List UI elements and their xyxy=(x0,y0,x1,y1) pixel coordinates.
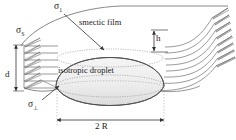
label-smectic-film: smectic film xyxy=(79,18,121,27)
dimension-d xyxy=(13,45,24,91)
label-sigma-s: σS xyxy=(16,26,24,38)
figure-canvas: σS σ1 σ⊥ smectic film isotropic droplet … xyxy=(0,0,236,140)
label-sigma-i: σ1 xyxy=(54,2,62,14)
label-diameter-2r: 2 R xyxy=(95,122,108,131)
film-top-surface xyxy=(22,6,228,46)
smectic-layer-edges-right xyxy=(212,8,236,67)
sigma-perp-subscript: ⊥ xyxy=(33,105,38,111)
label-height-h: h xyxy=(156,34,161,43)
sigma-s-subscript: S xyxy=(21,31,24,37)
sigma-i-subscript: 1 xyxy=(59,7,62,13)
label-sigma-perp: σ⊥ xyxy=(28,100,38,112)
label-thickness-d: d xyxy=(5,70,10,79)
label-isotropic-droplet: isotropic droplet xyxy=(58,66,114,75)
